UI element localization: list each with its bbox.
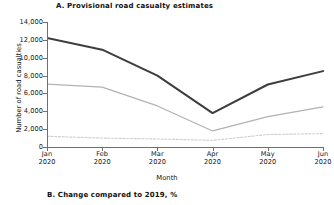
x-tick-label-year: 2020: [149, 158, 166, 166]
x-tick-label-month: Mar: [149, 150, 166, 158]
x-tick-label-month: Jan: [38, 150, 55, 158]
x-tick-label-year: 2020: [259, 158, 276, 166]
series-line-series-light-dashed: [47, 134, 323, 141]
y-tick-label: 10,000: [20, 54, 43, 62]
x-tick-label: Feb2020: [94, 150, 111, 166]
y-tick-mark: [43, 93, 47, 94]
panel-a-title: A. Provisional road casualty estimates: [56, 2, 213, 10]
y-tick-mark: [43, 111, 47, 112]
x-tick-label-month: Feb: [94, 150, 111, 158]
x-axis-line: [47, 147, 324, 148]
x-tick-label-year: 2020: [94, 158, 111, 166]
series-line-series-dark: [47, 38, 323, 113]
y-axis-title: Number of road casualties: [15, 25, 23, 151]
series-line-series-mid: [47, 84, 323, 131]
x-axis-title: Month: [0, 174, 334, 182]
x-axis-tick-labels: Jan2020Feb2020Mar2020Apr2020May2020Jun20…: [47, 150, 324, 174]
y-tick-label: 6,000: [24, 89, 43, 97]
y-tick-label: 8,000: [24, 72, 43, 80]
y-tick-mark: [43, 129, 47, 130]
x-tick-label-month: Apr: [204, 150, 221, 158]
y-tick-mark: [43, 76, 47, 77]
x-tick-label: Mar2020: [149, 150, 166, 166]
y-tick-mark: [43, 22, 47, 23]
x-tick-label-month: Jun: [314, 150, 331, 158]
panel-b-title: B. Change compared to 2019, %: [47, 191, 177, 199]
series-lines: [47, 22, 324, 148]
y-tick-label: 4,000: [24, 107, 43, 115]
x-tick-label-month: May: [259, 150, 276, 158]
y-axis-title-wrapper: Number of road casualties: [8, 22, 22, 148]
x-tick-label: Apr2020: [204, 150, 221, 166]
y-tick-label: 2,000: [24, 125, 43, 133]
chart-figure: A. Provisional road casualty estimates 1…: [0, 0, 334, 205]
y-tick-label: 14,000: [20, 18, 43, 26]
y-tick-label: 12,000: [20, 36, 43, 44]
y-tick-mark: [43, 40, 47, 41]
x-tick-label: Jun2020: [314, 150, 331, 166]
x-tick-label: Jan2020: [38, 150, 55, 166]
x-tick-label-year: 2020: [204, 158, 221, 166]
y-tick-mark: [43, 58, 47, 59]
x-tick-label: May2020: [259, 150, 276, 166]
x-tick-label-year: 2020: [38, 158, 55, 166]
plot-area: [47, 22, 324, 148]
y-axis-line: [47, 22, 48, 148]
x-tick-label-year: 2020: [314, 158, 331, 166]
